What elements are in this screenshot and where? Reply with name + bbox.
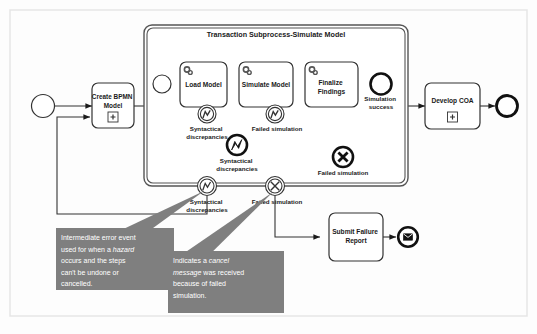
envelope-icon: [403, 234, 412, 240]
boundary-cancel-event-subprocess[interactable]: [266, 177, 285, 196]
end-event-simulation-success-label: Simulation success: [364, 95, 397, 110]
bpmn-diagram-svg: Transaction Subprocess-Simulate Model Cr…: [0, 0, 537, 334]
task-develop-coa-label: Develop COA: [431, 97, 473, 105]
boundary-error-simulate-model-label: Failed simulation: [252, 125, 303, 132]
boundary-error-load-model-label: Syntactical discrepancies: [186, 125, 228, 140]
boundary-error-event-subprocess[interactable]: [198, 177, 217, 196]
subprocess-start-event[interactable]: [153, 75, 171, 93]
boundary-error-event-simulate-model[interactable]: [266, 105, 284, 123]
bpmn-diagram-canvas: Transaction Subprocess-Simulate Model Cr…: [0, 0, 537, 334]
boundary-error-subprocess-label: Syntactical discrepancies: [186, 198, 228, 213]
subprocess-expand-marker-develop-coa[interactable]: [448, 112, 458, 122]
task-load-model-label: Load Model: [185, 81, 222, 88]
end-event-simulation-success[interactable]: [371, 74, 392, 95]
end-event-cancel-failed-simulation-label: Failed simulation: [318, 169, 369, 176]
task-simulate-model-label: Simulate Model: [242, 81, 291, 88]
end-event-error-syntactical[interactable]: [227, 135, 247, 155]
message-end-event-submit-failure-report[interactable]: [398, 227, 418, 247]
boundary-error-event-load-model[interactable]: [198, 105, 216, 123]
subprocess-expand-marker-create-bpmn[interactable]: [108, 112, 118, 122]
end-event-cancel-failed-simulation[interactable]: [333, 147, 353, 167]
end-event-error-syntactical-label: Syntactical discrepancies: [216, 157, 258, 172]
task-finalize-findings-label: Finalize Findings: [318, 79, 346, 96]
end-event-develop-coa[interactable]: [497, 96, 518, 117]
start-event[interactable]: [32, 95, 55, 118]
subprocess-title: Transaction Subprocess-Simulate Model: [207, 30, 346, 39]
